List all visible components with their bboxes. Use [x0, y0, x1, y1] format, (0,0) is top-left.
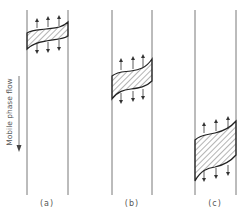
- panel-a: [27, 10, 68, 195]
- flow-arrow: [17, 76, 22, 152]
- band-a: [27, 22, 68, 49]
- panel-b: [112, 10, 152, 195]
- mobile-phase-flow-label: Mobile phase flow: [5, 78, 14, 145]
- panel-label-b: (b): [125, 199, 139, 208]
- band-broadening-diagram: [0, 0, 245, 218]
- panel-label-c: (c): [208, 199, 222, 208]
- panel-label-a: (a): [40, 199, 54, 208]
- band-b: [112, 59, 152, 99]
- panel-c: [195, 10, 236, 195]
- band-c: [195, 121, 236, 181]
